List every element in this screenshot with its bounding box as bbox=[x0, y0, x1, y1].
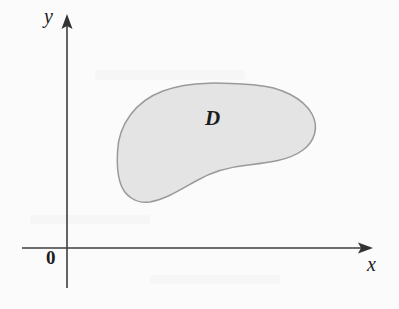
figure-graphic bbox=[0, 0, 399, 309]
x-axis-label: x bbox=[367, 254, 376, 274]
region-d-label: D bbox=[205, 108, 220, 129]
region-d-shape bbox=[117, 83, 315, 202]
origin-label: 0 bbox=[46, 248, 56, 267]
y-axis-label: y bbox=[44, 6, 53, 26]
figure-canvas: y x 0 D bbox=[0, 0, 399, 309]
